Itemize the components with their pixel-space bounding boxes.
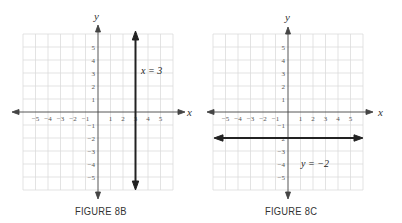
y-tick-labels: 5 4 3 2 1 −1 −2 −3 −4 −5	[88, 44, 96, 182]
svg-text:3: 3	[324, 115, 328, 123]
svg-text:−3: −3	[247, 115, 255, 123]
svg-text:2: 2	[311, 115, 315, 123]
svg-text:3: 3	[282, 70, 286, 78]
x-tick-labels: −5 −4 −3 −2 −1 1 2 3 4 5	[32, 115, 163, 123]
svg-text:4: 4	[282, 57, 286, 65]
y-axis-label: y	[284, 11, 290, 23]
line-y-equals-neg-2	[214, 135, 363, 141]
svg-text:−5: −5	[222, 115, 230, 123]
equation-label: y = −2	[300, 158, 329, 169]
svg-text:−4: −4	[234, 115, 242, 123]
svg-text:2: 2	[92, 83, 96, 91]
svg-text:2: 2	[121, 115, 125, 123]
svg-text:2: 2	[282, 83, 286, 91]
figure-8b-plot: x y −5 −4 −3 −2 −1 1 2 3 4 5 5 4 3 2 1 −…	[0, 0, 201, 223]
figure-8c-plot: x y −5 −4 −3 −2 −1 1 2 3 4 5 5 4 3 2 1 −…	[201, 0, 402, 223]
svg-text:5: 5	[92, 44, 96, 52]
svg-text:−3: −3	[57, 115, 65, 123]
figure-8c: x y −5 −4 −3 −2 −1 1 2 3 4 5 5 4 3 2 1 −…	[201, 0, 402, 223]
svg-text:1: 1	[109, 115, 113, 123]
svg-text:1: 1	[282, 96, 286, 104]
svg-text:4: 4	[336, 115, 340, 123]
y-axis-label: y	[93, 10, 99, 22]
x-axis-label: x	[186, 106, 192, 118]
y-tick-labels: 5 4 3 2 1 −1 −2 −3 −4 −5	[278, 44, 286, 182]
svg-text:−4: −4	[278, 161, 286, 169]
axes	[12, 25, 185, 199]
figure-caption: FIGURE 8B	[75, 205, 127, 217]
svg-text:−5: −5	[278, 174, 286, 182]
svg-text:−3: −3	[278, 148, 286, 156]
svg-text:4: 4	[146, 115, 150, 123]
figure-caption: FIGURE 8C	[265, 205, 317, 217]
svg-text:−1: −1	[88, 122, 96, 130]
svg-text:−4: −4	[44, 115, 52, 123]
svg-text:−2: −2	[88, 135, 96, 143]
svg-text:4: 4	[92, 57, 96, 65]
svg-text:1: 1	[299, 115, 303, 123]
equation-label: x = 3	[140, 65, 162, 76]
x-axis-label: x	[377, 106, 383, 118]
svg-text:−4: −4	[88, 161, 96, 169]
svg-text:−2: −2	[69, 115, 77, 123]
svg-text:5: 5	[282, 44, 286, 52]
svg-text:3: 3	[92, 70, 96, 78]
svg-text:−1: −1	[278, 122, 286, 130]
figure-8b: x y −5 −4 −3 −2 −1 1 2 3 4 5 5 4 3 2 1 −…	[0, 0, 201, 223]
svg-text:5: 5	[349, 115, 353, 123]
svg-text:−3: −3	[88, 148, 96, 156]
svg-text:1: 1	[92, 96, 96, 104]
line-x-equals-3	[132, 31, 138, 190]
axes	[207, 27, 373, 199]
svg-text:−5: −5	[88, 174, 96, 182]
svg-text:−2: −2	[259, 115, 267, 123]
x-tick-labels: −5 −4 −3 −2 −1 1 2 3 4 5	[222, 115, 353, 123]
svg-text:5: 5	[159, 115, 163, 123]
svg-text:−5: −5	[32, 115, 40, 123]
